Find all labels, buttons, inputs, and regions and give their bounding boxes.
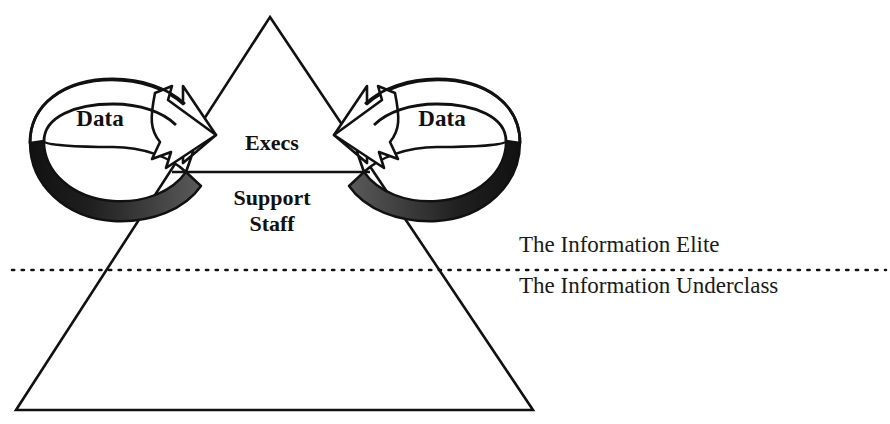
pyramid-diagram-canvas: Data Data Execs Support Staff The Inform… — [0, 0, 890, 424]
support-label-line1: Support — [233, 185, 311, 210]
diagram-root: Data Data Execs Support Staff The Inform… — [0, 0, 890, 424]
right-data-arrow: Data — [334, 79, 520, 221]
support-label-line2: Staff — [249, 211, 295, 236]
left-arrow-label: Data — [76, 106, 124, 131]
right-arrow-label: Data — [418, 106, 466, 131]
execs-label: Execs — [245, 130, 299, 155]
left-data-arrow: Data — [30, 79, 216, 221]
information-elite-label: The Information Elite — [519, 232, 720, 257]
information-underclass-label: The Information Underclass — [519, 273, 778, 298]
